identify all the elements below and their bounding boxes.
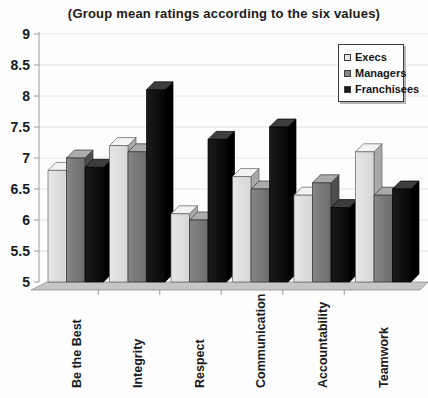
legend-label-managers: Managers [355, 67, 406, 79]
bar-franchisees-5 [331, 208, 350, 282]
bar-franchisees-2 [147, 90, 166, 282]
legend-item-managers: Managers [344, 65, 403, 81]
legend-label-execs: Execs [355, 51, 387, 63]
category-label: Accountability [316, 302, 330, 388]
bar-execs-3 [171, 214, 190, 282]
y-axis-label: 9 [22, 26, 30, 42]
bar-execs-5 [294, 195, 313, 282]
y-axis-label: 7.5 [11, 119, 31, 135]
legend-swatch-franchisees [344, 86, 351, 93]
legend-item-execs: Execs [344, 49, 403, 65]
bar-execs-2 [110, 146, 129, 282]
category-label: Communication [254, 294, 268, 388]
bar-managers-5 [313, 183, 332, 282]
y-axis-label: 5 [22, 274, 30, 290]
y-axis-label: 7 [22, 150, 30, 166]
category-label: Be the Best [70, 318, 84, 388]
bar-side-franchisees-6 [411, 181, 419, 282]
bar-managers-6 [374, 195, 393, 282]
legend-swatch-managers [344, 70, 351, 77]
legend-item-franchisees: Franchisees [344, 81, 403, 97]
chart-container: (Group mean ratings according to the six… [0, 0, 428, 398]
category-label: Respect [193, 339, 207, 388]
y-axis-label: 5.5 [11, 243, 31, 259]
bar-execs-1 [48, 170, 67, 282]
bar-execs-6 [356, 152, 375, 282]
bar-managers-3 [190, 220, 209, 282]
bar-managers-2 [128, 152, 147, 282]
chart-floor [31, 282, 428, 290]
y-axis-label: 6.5 [11, 181, 31, 197]
bar-execs-4 [233, 177, 252, 282]
bar-franchisees-4 [270, 127, 289, 282]
bar-managers-1 [67, 158, 86, 282]
bar-franchisees-6 [393, 189, 412, 282]
category-label: Teamwork [377, 327, 391, 388]
bar-franchisees-1 [85, 167, 104, 282]
bar-franchisees-3 [208, 139, 227, 282]
y-axis-label: 6 [22, 212, 30, 228]
legend-label-franchisees: Franchisees [355, 83, 419, 95]
legend-swatch-execs [344, 54, 351, 61]
bar-managers-4 [251, 189, 270, 282]
legend: Execs Managers Franchisees [338, 44, 404, 102]
y-axis-label: 8 [22, 88, 30, 104]
category-label: Integrity [131, 339, 145, 388]
y-axis-label: 8.5 [11, 57, 31, 73]
